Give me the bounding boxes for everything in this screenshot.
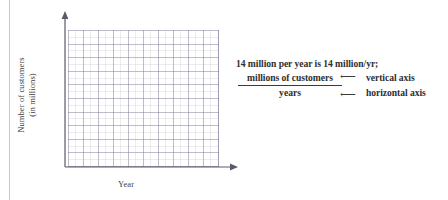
rate-annotation: 14 million per year is 14 million/yr; mi… — [236, 58, 448, 128]
horizontal-axis-arrowhead — [230, 164, 238, 171]
rate-fraction: millions of customers years — [238, 72, 342, 99]
y-axis-label-line1: Number of customers — [16, 30, 27, 160]
coordinate-plot: Number of customers (in millions) Year — [0, 0, 240, 200]
x-axis-label: Year — [118, 179, 134, 189]
callout-vertical-axis: vertical axis — [366, 72, 415, 83]
y-axis-label: Number of customers (in millions) — [16, 30, 38, 160]
fraction-numerator: millions of customers — [238, 72, 342, 84]
fraction-denominator: years — [238, 87, 342, 99]
callout-horizontal-axis: horizontal axis — [366, 87, 432, 99]
vertical-axis-arrowhead — [62, 11, 69, 19]
fraction-bar — [238, 85, 342, 86]
left-arrow-icon-vertical: ⟵ — [340, 71, 356, 82]
annotation-statement: 14 million per year is 14 million/yr; — [236, 58, 378, 69]
y-axis-label-line2: (in millions) — [27, 30, 38, 160]
left-arrow-icon-horizontal: ⟵ — [340, 89, 356, 100]
